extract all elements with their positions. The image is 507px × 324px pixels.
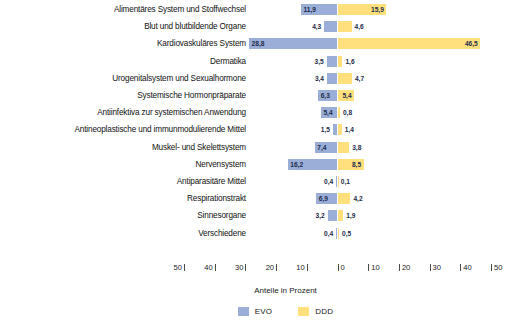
bar-ddd [338,142,350,153]
axis-tick-mark [368,264,369,271]
chart-row: Alimentäres System und Stoffwechsel11,91… [0,1,507,18]
axis-tick-label: 30 [213,263,243,273]
bar-value-evo: 0,4 [310,176,333,187]
bar-ddd [338,21,352,32]
bar-value-evo: 16,2 [290,159,336,170]
bar-value-evo: 4,3 [298,21,321,32]
bar-value-ddd: 0,8 [343,107,366,118]
bar-group: 3,44,7 [0,70,507,87]
axis-tick-label: 0 [341,263,371,273]
bar-ddd [338,107,340,118]
bar-group: 4,34,6 [0,18,507,35]
bar-ddd [338,56,343,67]
bar-group: 7,43,8 [0,139,507,156]
chart-row: Dermatika3,51,6 [0,53,507,70]
axis-tick-label: 20 [402,263,432,273]
axis-tick-label: 10 [371,263,401,273]
chart-row: Nervensystem16,28,5 [0,156,507,173]
bar-group: 1,51,4 [0,121,507,138]
bar-evo [324,21,337,32]
axis-tick-mark [338,264,339,271]
axis-tick-label: 50 [494,263,507,273]
axis-tick-mark [307,264,308,271]
axis-tick-mark [430,264,431,271]
bar-group: 0,40,1 [0,173,507,190]
axis-tick-label: 20 [244,263,274,273]
bar-ddd [338,228,340,239]
bar-value-evo: 3,2 [302,210,325,221]
bar-value-ddd: 4,7 [355,73,378,84]
bar-group: 6,35,4 [0,87,507,104]
chart-row: Muskel- und Skelettsystem7,43,8 [0,139,507,156]
bar-value-ddd: 1,4 [345,124,368,135]
axis-tick-mark [491,264,492,271]
chart-row: Systemische Hormonpräparate6,35,4 [0,87,507,104]
x-axis: 504030201001020304050 [0,262,507,284]
chart-row: Respirationstrakt6,94,2 [0,190,507,207]
chart-row: Urogenitalsystem und Sexualhormone3,44,7 [0,70,507,87]
bar-group: 16,28,5 [0,156,507,173]
bar-value-ddd: 4,2 [353,193,376,204]
bar-value-ddd: 46,5 [339,38,478,49]
bar-value-evo: 11,9 [303,4,336,15]
bar-evo [327,73,337,84]
legend-swatch-icon [238,307,249,316]
bar-value-ddd: 1,9 [346,210,369,221]
bar-value-evo: 6,9 [319,193,336,204]
diverging-bar-chart: Alimentäres System und Stoffwechsel11,91… [0,0,507,324]
bar-value-ddd: 15,9 [339,4,384,15]
chart-plot-area: Alimentäres System und Stoffwechsel11,91… [0,0,507,262]
axis-tick-label: 50 [152,263,182,273]
chart-legend: EVODDD [0,303,507,319]
bar-ddd [338,124,342,135]
bar-value-ddd: 0,1 [341,176,364,187]
axis-tick-mark [460,264,461,271]
bar-group: 6,94,2 [0,190,507,207]
x-axis-title: Anteile in Prozent [0,286,507,295]
chart-row: Antineoplastische und immunmodulierende … [0,121,507,138]
bar-value-ddd: 5,4 [339,90,352,101]
bar-group: 5,40,8 [0,104,507,121]
bar-group: 3,51,6 [0,53,507,70]
bar-evo [327,56,338,67]
bar-ddd [338,193,351,204]
bar-ddd [338,73,352,84]
bar-group: 28,846,5 [0,35,507,52]
axis-tick-mark [399,264,400,271]
chart-row: Blut und blutbildende Organe4,34,6 [0,18,507,35]
legend-item-evo[interactable]: EVO [238,307,273,316]
legend-label: DDD [315,307,333,316]
chart-row: Kardiovaskuläres System28,846,5 [0,35,507,52]
axis-tick-label: 40 [463,263,493,273]
chart-row: Sinnesorgane3,21,9 [0,207,507,224]
bar-value-ddd: 0,5 [342,228,365,239]
x-axis-title-text: Anteile in Prozent [254,286,317,295]
bar-value-evo: 28,8 [252,38,336,49]
axis-tick-label: 30 [433,263,463,273]
chart-row: Antiinfektiva zur systemischen Anwendung… [0,104,507,121]
axis-tick-label: 40 [183,263,213,273]
bar-value-evo: 1,5 [307,124,330,135]
bar-value-ddd: 4,6 [355,21,378,32]
bar-ddd [338,210,344,221]
bar-value-ddd: 1,6 [345,56,368,67]
bar-value-evo: 6,3 [321,90,336,101]
bar-group: 11,915,9 [0,1,507,18]
legend-label: EVO [255,307,273,316]
bar-group: 0,40,5 [0,225,507,242]
axis-tick-label: 10 [275,263,305,273]
chart-row: Verschiedene0,40,5 [0,225,507,242]
bar-value-ddd: 3,8 [352,142,375,153]
bar-value-evo: 0,4 [310,228,333,239]
bar-value-evo: 3,4 [301,73,324,84]
bar-value-ddd: 8,5 [339,159,362,170]
bar-value-evo: 5,4 [323,107,336,118]
chart-row: Antiparasitäre Mittel0,40,1 [0,173,507,190]
bar-value-evo: 7,4 [317,142,336,153]
legend-item-ddd[interactable]: DDD [298,307,333,316]
bar-value-evo: 3,5 [301,56,324,67]
bar-group: 3,21,9 [0,207,507,224]
bar-evo [328,210,338,221]
legend-swatch-icon [298,307,309,316]
